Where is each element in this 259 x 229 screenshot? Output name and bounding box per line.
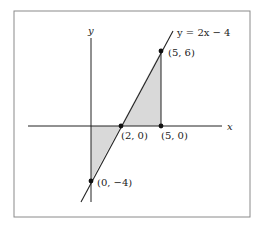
point-5-0	[159, 124, 164, 129]
diagram-canvas: y x y = 2x − 4 (5, 6) (2, 0) (5, 0) (0, …	[0, 0, 259, 229]
x-axis-label: x	[227, 121, 233, 132]
equation-label: y = 2x − 4	[176, 27, 231, 38]
shaded-region-upper	[121, 51, 161, 126]
y-axis-label: y	[87, 25, 94, 36]
point-0-neg4	[89, 179, 94, 184]
point-2-0	[119, 124, 124, 129]
point-label-5-0: (5, 0)	[161, 130, 188, 141]
point-label-2-0: (2, 0)	[121, 130, 148, 141]
point-label-0-neg4: (0, −4)	[97, 177, 132, 188]
point-label-5-6: (5, 6)	[168, 47, 195, 58]
point-5-6	[159, 49, 164, 54]
shaded-region-lower	[91, 126, 121, 181]
